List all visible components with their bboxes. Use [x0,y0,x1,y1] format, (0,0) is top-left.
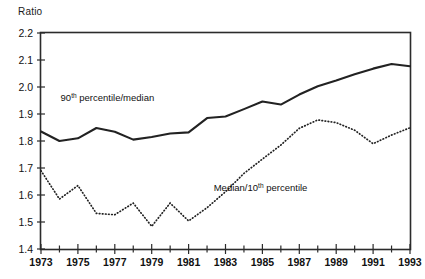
y-tick-label: 1.4 [18,243,33,255]
x-tick-label: 1983 [214,256,238,268]
y-tick-label: 1.5 [18,216,33,228]
x-tick-label: 1993 [398,256,422,268]
y-tick-label: 2.2 [18,27,33,39]
x-tick-label: 1979 [140,256,164,268]
y-tick-label: 1.8 [18,135,33,147]
x-tick-label: 1981 [177,256,201,268]
x-axis-tick-labels: 1973197519771979198119831985198719891991… [29,256,422,268]
series-annotation-90th-percentile-median: 90th percentile/median [61,92,155,103]
series-line-median-10th-percentile [41,120,410,226]
y-tick-label: 1.9 [18,108,33,120]
y-tick-label: 2.0 [18,81,33,93]
x-tick-label: 1985 [251,256,275,268]
x-tick-label: 1973 [29,256,53,268]
x-tick-label: 1977 [103,256,127,268]
plot-frame [41,33,411,250]
x-axis-ticks [41,244,410,254]
y-tick-label: 2.1 [18,54,33,66]
series-annotation-median-10th-percentile: Median/10th percentile [214,182,308,193]
x-tick-label: 1991 [361,256,385,268]
y-tick-label: 1.7 [18,162,33,174]
y-tick-label: 1.6 [18,189,33,201]
y-axis-tick-labels: 2.22.12.01.91.81.71.61.51.4 [18,27,33,255]
x-tick-label: 1975 [66,256,90,268]
chart-figure: Ratio 2.22.12.01.91.81.71.61.51.4 197319… [0,0,425,279]
line-chart-plot: 2.22.12.01.91.81.71.61.51.4 197319751977… [0,0,425,279]
x-tick-label: 1987 [288,256,312,268]
x-tick-label: 1989 [325,256,349,268]
